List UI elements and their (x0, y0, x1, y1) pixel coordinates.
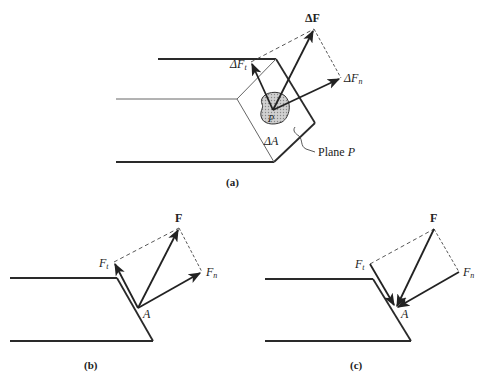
dashed-guide (251, 29, 314, 62)
label-point-p: P (267, 113, 274, 124)
label-delta-f: ΔF (305, 11, 320, 25)
label-delta-a: ΔA (263, 134, 279, 148)
label-f: F (175, 211, 182, 225)
dashed-guide (179, 228, 202, 272)
label-plane-p: Plane P (318, 145, 356, 159)
label-a: A (142, 307, 151, 321)
vector-delta-f (273, 31, 313, 110)
figure-c: F Ft Fn A (c) (265, 211, 474, 372)
label-ft: Ft (354, 257, 365, 272)
caption-c: (c) (350, 359, 363, 372)
label-f: F (430, 211, 437, 225)
figure-b: F Ft Fn A (b) (10, 211, 217, 372)
caption-b: (b) (84, 359, 98, 372)
label-fn: Fn (462, 265, 474, 280)
vector-fn (398, 272, 459, 307)
dashed-guide (370, 229, 434, 264)
caption-a: (a) (226, 176, 239, 189)
label-ft: Ft (98, 256, 109, 271)
stress-vector-diagram: ΔF ΔFt ΔFn P ΔA Plane P (a) F Ft Fn A (b… (0, 0, 484, 380)
vector-ft (115, 264, 138, 308)
label-fn: Fn (205, 265, 217, 280)
dashed-guide (314, 29, 341, 78)
dashed-guide (434, 229, 459, 272)
figure-a: ΔF ΔFt ΔFn P ΔA Plane P (a) (116, 11, 362, 189)
dashed-guide (114, 228, 179, 262)
vector-ft (370, 264, 394, 305)
label-a: A (400, 307, 409, 321)
vector-f (397, 229, 434, 306)
label-delta-fn: ΔFn (343, 71, 362, 86)
